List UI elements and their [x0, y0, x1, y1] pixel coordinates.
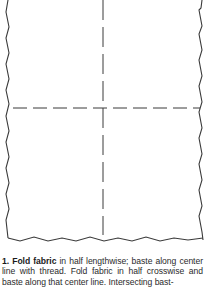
step-label: 1. Fold fabric	[2, 256, 56, 266]
right-pinked-edge	[199, 0, 203, 240]
left-pinked-edge	[6, 0, 9, 238]
instruction-caption: 1. Fold fabric in half lengthwise; baste…	[2, 256, 203, 287]
bottom-pinked-edge	[8, 237, 203, 241]
fabric-illustration	[0, 0, 204, 246]
